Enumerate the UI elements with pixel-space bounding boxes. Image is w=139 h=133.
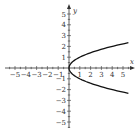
- y-tick-label: −3: [56, 97, 66, 105]
- x-tick-label: 3: [99, 71, 103, 79]
- parabola-plot: −5−4−3−2−112345−5−4−3−2−112345 x y: [0, 0, 139, 133]
- y-axis-label: y: [72, 7, 78, 15]
- y-tick-label: 3: [62, 32, 66, 40]
- x-tick-label: −3: [31, 71, 41, 79]
- y-tick-label: −1: [56, 75, 66, 83]
- y-tick-label: −4: [56, 108, 67, 116]
- x-axis-arrow-icon: [130, 66, 135, 70]
- y-tick-label: 5: [62, 11, 66, 19]
- y-tick-label: 4: [62, 21, 67, 29]
- y-tick-label: 1: [62, 54, 66, 62]
- y-tick-label: 2: [62, 43, 66, 51]
- y-tick-label: −2: [56, 86, 66, 94]
- x-tick-label: −2: [42, 71, 52, 79]
- y-tick-label: −5: [56, 119, 66, 127]
- x-tick-label: 4: [110, 71, 115, 79]
- x-axis-label: x: [130, 58, 134, 66]
- x-tick-label: 2: [88, 71, 92, 79]
- x-tick-label: −4: [21, 71, 32, 79]
- x-tick-label: −5: [10, 71, 20, 79]
- y-axis-arrow-icon: [67, 4, 71, 9]
- tick-labels: −5−4−3−2−112345−5−4−3−2−112345: [10, 11, 125, 127]
- x-tick-label: 5: [121, 71, 125, 79]
